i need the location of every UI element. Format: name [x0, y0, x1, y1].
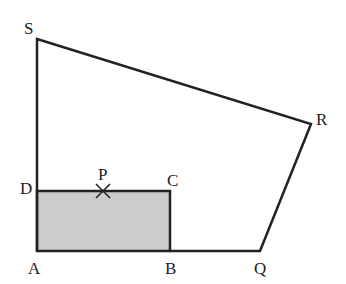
- label-c: C: [167, 171, 178, 190]
- label-d: D: [20, 179, 32, 198]
- label-p: P: [98, 165, 107, 184]
- label-a: A: [28, 259, 41, 278]
- label-q: Q: [254, 259, 266, 278]
- label-s: S: [24, 19, 33, 38]
- geometry-diagram: S R Q A B C D P: [0, 0, 346, 284]
- label-b: B: [165, 259, 176, 278]
- shaded-rectangle-abcd: [37, 191, 170, 251]
- label-r: R: [316, 110, 328, 129]
